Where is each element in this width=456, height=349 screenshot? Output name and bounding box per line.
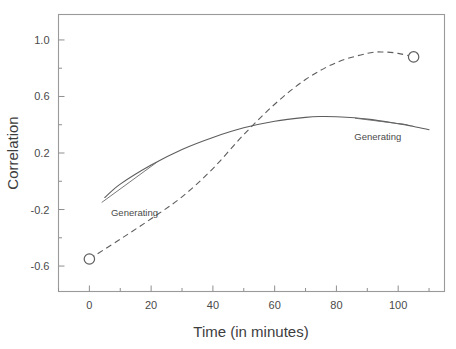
data-series-layer	[89, 52, 429, 259]
y-axis-tick-labels: 1.00.60.2-0.2-0.6	[31, 34, 50, 272]
x-tick-label: 40	[207, 299, 219, 311]
data-point-marker	[84, 254, 94, 264]
plot-frame	[59, 15, 445, 292]
y-tick-label: -0.2	[31, 204, 50, 216]
y-tick-label: -0.6	[31, 260, 50, 272]
data-point-markers	[84, 52, 419, 264]
x-axis-title: Time (in minutes)	[193, 323, 308, 340]
series-curve-solid	[105, 116, 429, 197]
x-axis-tick-labels: 020406080100	[86, 299, 407, 311]
y-tick-label: 0.6	[34, 90, 49, 102]
y-tick-label: 0.2	[34, 147, 49, 159]
y-tick-label: 1.0	[34, 34, 49, 46]
series-annotation-label: Generating	[354, 131, 401, 142]
annotation-leader-line	[355, 118, 407, 125]
chart-container: 020406080100 1.00.60.2-0.2-0.6 Generatin…	[0, 0, 456, 349]
series-annotation-label: Generating	[111, 207, 158, 218]
x-tick-label: 60	[269, 299, 281, 311]
x-tick-label: 100	[389, 299, 407, 311]
series-curve-dashed	[89, 52, 413, 259]
data-point-marker	[408, 52, 418, 62]
x-tick-label: 20	[145, 299, 157, 311]
annotation-leader-line	[102, 162, 158, 203]
y-axis-major-ticks	[59, 40, 65, 266]
correlation-time-line-chart: 020406080100 1.00.60.2-0.2-0.6 Generatin…	[0, 0, 456, 349]
x-tick-label: 80	[330, 299, 342, 311]
x-tick-label: 0	[86, 299, 92, 311]
y-axis-title: Correlation	[4, 116, 21, 189]
series-annotations: GeneratingGenerating	[102, 118, 408, 217]
